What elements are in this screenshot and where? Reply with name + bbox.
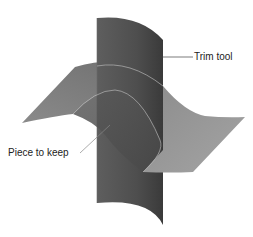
trim-diagram bbox=[0, 0, 253, 237]
piece-to-keep-label: Piece to keep bbox=[8, 147, 69, 159]
trim-tool-label: Trim tool bbox=[194, 51, 233, 63]
